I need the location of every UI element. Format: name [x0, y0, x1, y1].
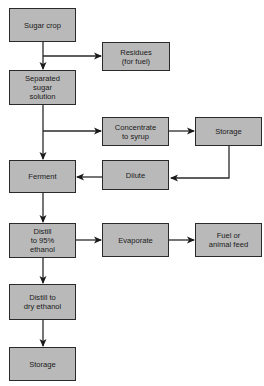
node-distill-to-dry-ethanol: Distill to dry ethanol: [9, 284, 76, 320]
edge-storage-dilute: [171, 146, 229, 178]
node-distill-to-95-ethanol: Distill to 95% ethanol: [9, 223, 76, 258]
node-sugar-crop: Sugar crop: [9, 8, 76, 42]
node-storage-final: Storage: [9, 347, 76, 381]
node-ferment: Ferment: [9, 160, 76, 193]
node-fuel-or-animal-feed: Fuel or animal feed: [195, 223, 262, 257]
node-evaporate: Evaporate: [102, 223, 169, 257]
node-storage-syrup: Storage: [195, 117, 262, 146]
node-residues: Residues (for fuel): [102, 42, 170, 71]
node-concentrate-to-syrup: Concentrate to syrup: [102, 117, 169, 146]
node-dilute: Dilute: [102, 160, 169, 190]
process-flow-diagram: Sugar crop Residues (for fuel) Separated…: [0, 0, 264, 386]
node-separated-sugar-solution: Separated sugar solution: [9, 70, 76, 105]
